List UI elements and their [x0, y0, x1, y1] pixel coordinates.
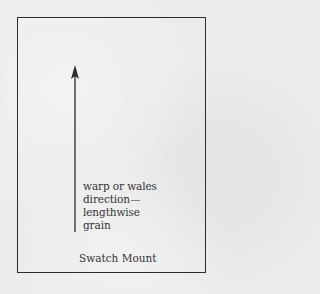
swatch-mount-frame: [17, 17, 206, 273]
grain-direction-caption: warp or wales direction— lengthwise grai…: [83, 180, 157, 232]
swatch-mount-label: Swatch Mount: [79, 252, 156, 265]
grain-direction-arrow-icon: [68, 64, 82, 234]
caption-line-2: direction—: [83, 193, 157, 206]
caption-line-1: warp or wales: [83, 180, 157, 193]
caption-line-3: lengthwise: [83, 206, 157, 219]
caption-line-4: grain: [83, 219, 157, 232]
